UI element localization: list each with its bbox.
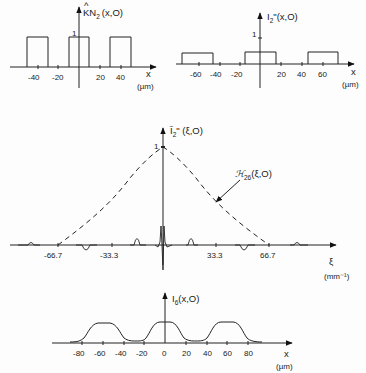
p4-tick: 20 (182, 349, 191, 358)
p1-tick: 40 (116, 73, 125, 82)
p3-tick: -66.7 (44, 251, 63, 260)
p4-tick: -40 (115, 349, 127, 358)
p2-tick: 20 (277, 70, 286, 79)
p4-tick: 0 (162, 349, 167, 358)
p2-tick: -20 (231, 70, 243, 79)
p3-tick: 33.3 (207, 251, 223, 260)
p2-y-one: 1 (252, 30, 257, 39)
p3-xunit: (mm⁻¹) (324, 272, 350, 281)
p2-labels: I2"(x,O) 1 -60 -40 -20 20 40 60 x (µm) (190, 11, 359, 89)
p4-xunit: (µm) (276, 362, 293, 371)
p1-ylabel: KN2(x,O) (83, 7, 123, 20)
p2-tick: 60 (318, 70, 327, 79)
p4-ylabel: I6(x,O) (172, 293, 199, 306)
p3-annotation: ℋ26(ξ,O) (235, 168, 272, 181)
p1-xlabel: x (146, 68, 151, 79)
p4-tick: -80 (73, 349, 85, 358)
p2-ylabel: I2"(x,O) (267, 11, 298, 24)
p3-xlabel: ξ (329, 256, 334, 267)
p4-labels: I6(x,O) -80 -60 -40 -20 0 20 40 60 80 x … (73, 293, 293, 371)
p2-xunit: (µm) (342, 80, 359, 89)
p1-xunit: (µm) (137, 82, 154, 91)
p4-xlabel: x (284, 348, 289, 359)
p1-tick: -40 (28, 73, 40, 82)
p2-tick: -40 (210, 70, 222, 79)
p2-tick: -60 (190, 70, 202, 79)
p4-tick: 60 (223, 349, 232, 358)
p3-y-one: 1 (154, 142, 159, 151)
p4-tick: -20 (136, 349, 148, 358)
panel-top-right (176, 13, 354, 88)
p1-y-one: 1 (72, 29, 77, 38)
p1-tick: 20 (96, 73, 105, 82)
p2-xlabel: x (351, 66, 356, 77)
p4-tick: -60 (94, 349, 106, 358)
p4-smoothed-pulse-train (70, 322, 262, 342)
p4-tick: 40 (203, 349, 212, 358)
p1-tick: -20 (52, 73, 64, 82)
p4-tick: 80 (244, 349, 253, 358)
p3-tick: 66.7 (260, 251, 276, 260)
p2-tick: 40 (297, 70, 306, 79)
p1-labels: ^ KN2(x,O) 1 -40 -20 20 40 x (µm) (28, 0, 154, 91)
figure-canvas: ^ KN2(x,O) 1 -40 -20 20 40 x (µm) I2"(x,… (0, 0, 366, 373)
p3-annotation-arrow (216, 180, 240, 202)
p3-ylabel: Ĩ2" (ξ,O) (169, 125, 203, 138)
p3-labels: Ĩ2" (ξ,O) 1 -66.7 -33.3 33.3 66.7 ξ (mm⁻… (44, 125, 350, 281)
p3-tick: -33.3 (100, 251, 119, 260)
figure: ^ KN2(x,O) 1 -40 -20 20 40 x (µm) I2"(x,… (0, 0, 366, 373)
panel-middle (10, 128, 336, 270)
